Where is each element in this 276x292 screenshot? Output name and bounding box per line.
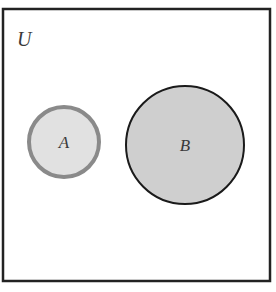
set-b-label: B [180, 136, 191, 155]
set-a-label: A [58, 133, 70, 152]
universe-label: U [17, 28, 33, 50]
venn-diagram: U A B [0, 0, 276, 292]
